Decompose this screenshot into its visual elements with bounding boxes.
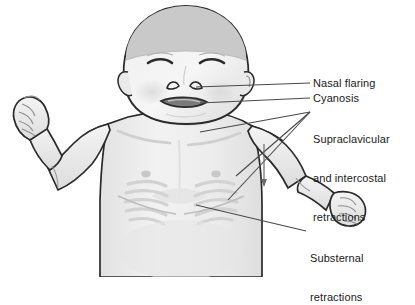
label-substernal-retractions: Substernal retractions xyxy=(310,226,364,305)
left-nipple xyxy=(141,171,150,178)
label-substernal-line-2: retractions xyxy=(310,291,364,304)
label-cyanosis: Cyanosis xyxy=(313,92,359,105)
right-nipple xyxy=(211,171,220,178)
label-supraclavicular-line-3: retractions xyxy=(313,211,390,224)
head-group xyxy=(118,6,254,124)
label-substernal-line-1: Substernal xyxy=(310,252,364,265)
label-supraclavicular-line-2: and intercostal xyxy=(313,172,390,185)
label-supraclavicular-line-1: Supraclavicular xyxy=(313,133,390,146)
label-nasal-flaring: Nasal flaring xyxy=(313,77,375,90)
left-arm-group xyxy=(13,96,110,190)
